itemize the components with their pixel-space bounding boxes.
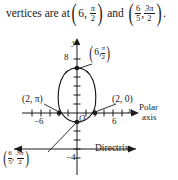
bottom-vertex-close-paren: ) [25, 150, 29, 166]
y-axis-label: y [72, 37, 76, 47]
bottom-vertex-theta-numerator: 3π [17, 150, 24, 157]
bottom-vertex-theta-denominator: 2 [17, 159, 24, 166]
top-vertex-close-paren: ) [106, 45, 110, 61]
bottom-vertex-open-paren: ( [3, 150, 7, 166]
origin-label: O [79, 113, 85, 123]
point-marker-2pi [57, 111, 62, 116]
top-vertex-theta-fraction: π 2 [101, 45, 105, 61]
point-label-bottom-vertex: ( 6 5 , 3π 2 ) [2, 150, 30, 166]
x-axis-label: x [128, 105, 132, 115]
point-marker-top-vertex [75, 66, 80, 71]
x-axis-arrowhead [131, 110, 139, 117]
top-vertex-theta-denominator: 2 [101, 54, 105, 61]
x-tick-label-neg6: −6 [34, 116, 44, 126]
leader-line-2pi [44, 104, 59, 112]
directrix-label: Directrix [95, 143, 129, 153]
top-vertex-open-paren: ( [89, 45, 93, 61]
point-label-2-0: (2, 0) [112, 94, 133, 104]
polar-conic-figure: vertices are at(6, π 2 ) and ( 6 5 , 3π … [0, 0, 178, 180]
leader-line-top-vertex [80, 64, 92, 68]
leader-line-bottom-vertex [48, 122, 77, 152]
polar-axis-label-line2: axis [142, 112, 157, 122]
point-label-2-pi: (2, π) [22, 94, 43, 104]
y-tick-label-neg4: −4 [66, 152, 76, 162]
bottom-vertex-theta-fraction: 3π 2 [17, 150, 24, 166]
polar-axis-label-line1: Polar [139, 102, 158, 112]
point-label-top-vertex: (6, π 2 ) [88, 45, 111, 61]
y-tick-label-8: 8 [64, 52, 69, 62]
point-marker-20 [93, 111, 98, 116]
top-vertex-theta-numerator: π [101, 45, 105, 52]
x-tick-label-6: 6 [112, 116, 117, 126]
